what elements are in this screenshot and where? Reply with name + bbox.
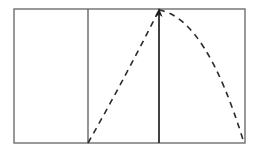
figure-container: [0, 0, 258, 154]
trajectory-diagram: [0, 0, 258, 154]
